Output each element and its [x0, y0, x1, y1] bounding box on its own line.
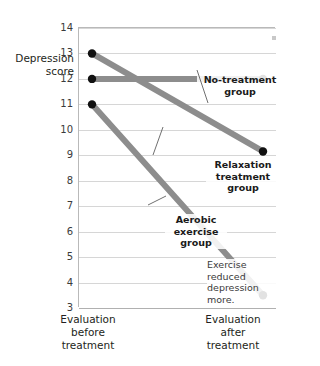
- annotation-exercise-line4: more.: [207, 294, 277, 306]
- annotation-exercise-line1: Exercise: [207, 259, 277, 271]
- x-axis-label-before-line2: before: [45, 326, 131, 339]
- callout-aerobic-exercise-group: Aerobic exercise group: [165, 214, 227, 249]
- page-artifact-speck: [272, 36, 276, 40]
- callout-no-treatment-group: No-treatment group: [197, 74, 283, 97]
- x-axis-label-before-line3: treatment: [45, 339, 131, 352]
- x-axis-label-after: Evaluation after treatment: [190, 313, 276, 352]
- callout-aerobic-line3: group: [165, 237, 227, 249]
- callout-aerobic-line1: Aerobic: [165, 214, 227, 226]
- y-axis-tick-label: 11: [47, 99, 73, 109]
- x-axis-label-after-line3: treatment: [190, 339, 276, 352]
- callout-relaxation-line2: treatment: [206, 171, 280, 183]
- callout-no-treatment-line2: group: [197, 86, 283, 98]
- gridline: [79, 308, 276, 309]
- annotation-exercise-line3: depression: [207, 282, 277, 294]
- annotation-exercise-line2: reduced: [207, 271, 277, 283]
- x-axis-label-after-line2: after: [190, 326, 276, 339]
- y-axis-tick-label: 10: [47, 125, 73, 135]
- callout-relaxation-treatment-group: Relaxation treatment group: [206, 159, 280, 194]
- y-axis-tick-label: 5: [47, 252, 73, 262]
- y-axis-tick-label: 6: [47, 227, 73, 237]
- data-point: [259, 147, 267, 155]
- y-axis-tick-label: 3: [47, 303, 73, 313]
- callout-relaxation-line1: Relaxation: [206, 159, 280, 171]
- x-axis-label-before-line1: Evaluation: [45, 313, 131, 326]
- data-point: [88, 100, 96, 108]
- y-axis-tick-label: 8: [47, 176, 73, 186]
- y-axis-tick-label: 7: [47, 201, 73, 211]
- y-axis-tick-label: 14: [47, 23, 73, 33]
- y-axis-tick-label: 12: [47, 74, 73, 84]
- callout-no-treatment-line1: No-treatment: [197, 74, 283, 86]
- x-axis-label-before: Evaluation before treatment: [45, 313, 131, 352]
- annotation-exercise-reduced-more: Exercise reduced depression more.: [207, 259, 277, 305]
- callout-relaxation-line3: group: [206, 182, 280, 194]
- plot-area: 14131211109876543 No-treatment group Rel…: [78, 27, 275, 307]
- data-point: [88, 49, 96, 57]
- y-axis-tick-label: 13: [47, 48, 73, 58]
- y-axis-tick-label: 4: [47, 278, 73, 288]
- callout-aerobic-line2: exercise: [165, 226, 227, 238]
- y-axis-tick-label: 9: [47, 150, 73, 160]
- data-point: [88, 75, 96, 83]
- x-axis-label-after-line1: Evaluation: [190, 313, 276, 326]
